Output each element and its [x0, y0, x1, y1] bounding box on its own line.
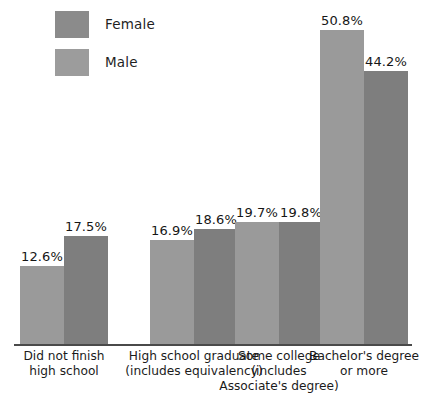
category-label-3: Bachelor's degreeor more [294, 349, 423, 379]
bar-rect [20, 266, 64, 344]
category-label-0: Did not finishhigh school [0, 349, 134, 379]
bar-value-label: 19.7% [236, 205, 278, 220]
bar-female-2: 19.7% [235, 222, 279, 344]
bar-female-1: 16.9% [150, 240, 194, 344]
bar-value-label: 17.5% [65, 219, 107, 234]
bar-male-1: 18.6% [194, 229, 238, 344]
bar-rect [150, 240, 194, 344]
x-axis-baseline [14, 344, 412, 346]
bar-rect [194, 229, 238, 344]
bar-female-3: 50.8% [320, 30, 364, 344]
bar-male-0: 17.5% [64, 236, 108, 344]
plot-area: 12.6%17.5%16.9%18.6%19.7%19.8%50.8%44.2% [0, 0, 423, 346]
bar-male-3: 44.2% [364, 71, 408, 344]
bar-value-label: 44.2% [365, 54, 407, 69]
bar-value-label: 18.6% [195, 212, 237, 227]
bar-value-label: 16.9% [151, 223, 193, 238]
bar-rect [364, 71, 408, 344]
bar-rect [279, 222, 323, 344]
bar-rect [235, 222, 279, 344]
bar-rect [320, 30, 364, 344]
bar-value-label: 12.6% [21, 249, 63, 264]
x-axis-category-labels: Did not finishhigh schoolHigh school gra… [0, 349, 423, 389]
bar-rect [64, 236, 108, 344]
bar-value-label: 50.8% [321, 13, 363, 28]
bar-male-2: 19.8% [279, 222, 323, 344]
bar-female-0: 12.6% [20, 266, 64, 344]
bar-value-label: 19.8% [280, 205, 322, 220]
